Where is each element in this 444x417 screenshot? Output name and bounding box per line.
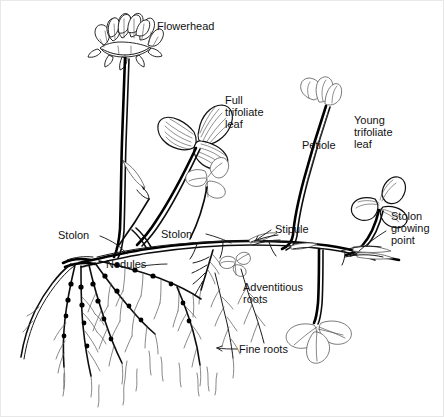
label-young-trifoliate-leaf-line2: trifoliate (354, 126, 393, 139)
label-stolon-growing-point-line1: Stolon (391, 210, 422, 223)
leader-fine-roots (217, 348, 237, 349)
label-nodules: Nodules (106, 258, 146, 271)
hanging-trifoliate-leaf-illustration (286, 321, 351, 363)
botanical-line-drawing (1, 1, 444, 417)
label-adventitious-roots-line1: Adventitious (243, 281, 303, 294)
label-full-trifoliate-leaf-line1: Full (225, 94, 243, 107)
young-leaf-under-full-leaf (186, 158, 229, 239)
label-full-trifoliate-leaf-line3: leaf (225, 118, 243, 131)
label-flowerhead: Flowerhead (157, 20, 214, 33)
label-stolon-middle: Stolon (161, 228, 192, 241)
label-adventitious-roots-line2: roots (243, 293, 267, 306)
label-stolon-left: Stolon (58, 229, 89, 242)
root-system-illustration (21, 257, 265, 407)
label-full-trifoliate-leaf-line2: trifoliate (225, 106, 264, 119)
label-young-trifoliate-leaf-line3: leaf (354, 138, 372, 151)
label-stolon-growing-point-line2: growing (391, 222, 430, 235)
label-stipule: Stipule (275, 223, 309, 236)
clover-diagram-figure: Flowerhead Full trifoliate leaf Petiole … (0, 0, 444, 417)
flowerhead-illustration (88, 13, 163, 258)
label-stolon-growing-point-line3: point (391, 234, 415, 247)
label-fine-roots: Fine roots (239, 343, 288, 356)
label-young-trifoliate-leaf-line1: Young (354, 114, 385, 127)
label-petiole: Petiole (302, 139, 336, 152)
